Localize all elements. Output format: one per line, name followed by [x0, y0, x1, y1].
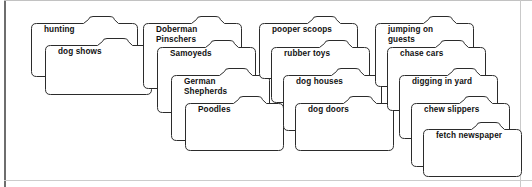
folder-label: dog houses [296, 77, 382, 87]
folder[interactable]: Poodles [185, 96, 283, 150]
page-border-left [4, 0, 6, 187]
folder-label: chase cars [400, 49, 486, 59]
folder-diagram-canvas: huntingdog showsDoberman PinschersSamoye… [0, 0, 532, 187]
folder-label: dog doors [308, 105, 394, 115]
folder[interactable]: dog doors [295, 96, 393, 150]
folder[interactable]: fetch newspaper [423, 122, 521, 176]
folder-label: Poodles [198, 105, 284, 115]
folder[interactable]: dog shows [45, 38, 151, 94]
folder-label: dog shows [58, 47, 144, 57]
folder-label: Samoyeds [170, 49, 256, 59]
folder-label: hunting [44, 25, 130, 35]
folder-label: fetch newspaper [436, 131, 522, 141]
folder-label: digging in yard [412, 77, 498, 87]
page-border-bottom [4, 180, 532, 181]
folder-label: pooper scoops [272, 25, 358, 35]
folder-label: rubber toys [284, 49, 370, 59]
folder-label: German Shepherds [184, 77, 270, 98]
page-border-top [4, 0, 532, 1]
folder-label: chew slippers [424, 105, 510, 115]
folder-label: Doberman Pinschers [156, 25, 242, 46]
folder-label: jumping on guests [388, 25, 474, 46]
